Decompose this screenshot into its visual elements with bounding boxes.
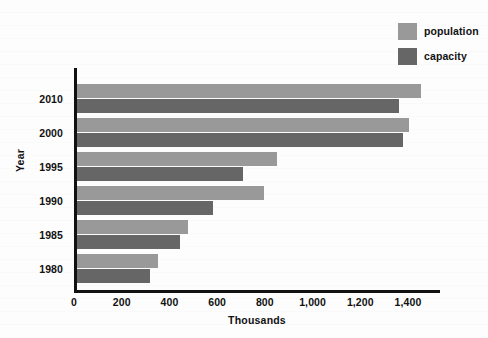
bar-capacity-1980 xyxy=(77,269,150,283)
x-tick-label-1200: 1,200 xyxy=(347,296,374,308)
y-tick-label-1990: 1990 xyxy=(39,195,63,207)
x-axis-title: Thousands xyxy=(74,314,440,326)
x-tick-label-0: 0 xyxy=(71,296,77,308)
bar-population-1995 xyxy=(77,152,277,166)
y-axis-tick-labels: 201020001995199019851980 xyxy=(0,68,70,293)
bar-population-2000 xyxy=(77,118,409,132)
plot-area xyxy=(74,68,440,293)
y-tick-label-1985: 1985 xyxy=(39,229,63,241)
y-tick-label-2000: 2000 xyxy=(39,127,63,139)
y-axis-title: Year xyxy=(14,149,26,172)
bar-capacity-1995 xyxy=(77,167,243,181)
legend-swatch-capacity xyxy=(398,48,417,65)
legend-label-capacity: capacity xyxy=(424,50,467,62)
bar-population-1990 xyxy=(77,186,264,200)
bar-chart: population capacity 20102000199519901985… xyxy=(0,0,488,338)
y-tick-label-2010: 2010 xyxy=(39,93,63,105)
chart-legend: population capacity xyxy=(398,22,488,72)
x-tick-label-800: 800 xyxy=(256,296,274,308)
legend-item-capacity: capacity xyxy=(398,47,488,65)
bar-capacity-2010 xyxy=(77,99,399,113)
x-tick-label-1400: 1,400 xyxy=(395,296,422,308)
bar-capacity-2000 xyxy=(77,133,403,147)
legend-item-population: population xyxy=(398,22,488,40)
x-axis-tick-labels: 02004006008001,0001,2001,400 xyxy=(74,296,440,312)
bar-capacity-1990 xyxy=(77,201,213,215)
y-tick-label-1980: 1980 xyxy=(39,263,63,275)
x-axis-line xyxy=(74,290,440,293)
x-tick-label-600: 600 xyxy=(208,296,226,308)
bar-population-1985 xyxy=(77,220,188,234)
legend-label-population: population xyxy=(424,25,479,37)
bar-capacity-1985 xyxy=(77,235,180,249)
bar-population-2010 xyxy=(77,84,421,98)
x-tick-label-1000: 1,000 xyxy=(299,296,326,308)
x-tick-label-400: 400 xyxy=(161,296,179,308)
bar-population-1980 xyxy=(77,254,158,268)
legend-swatch-population xyxy=(398,23,417,40)
y-tick-label-1995: 1995 xyxy=(39,161,63,173)
x-tick-label-200: 200 xyxy=(113,296,131,308)
